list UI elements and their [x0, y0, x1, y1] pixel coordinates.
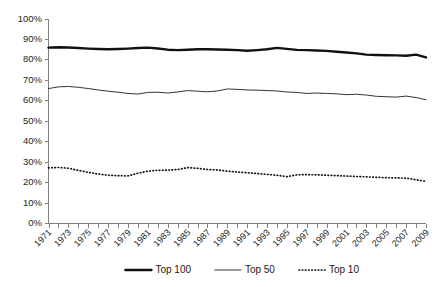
y-axis-tick-label: 100% [18, 13, 43, 24]
x-axis-tick-label: 2009 [410, 227, 431, 248]
x-axis-tick-label: 1979 [112, 227, 133, 248]
y-axis-tick-label: 80% [23, 53, 43, 64]
x-axis-tick-label: 1977 [92, 227, 113, 248]
x-axis-tick-label: 1987 [191, 227, 212, 248]
x-axis-tick-marks [50, 224, 427, 229]
x-axis-tick-label: 2007 [390, 227, 411, 248]
y-axis-tick-label: 0% [28, 217, 42, 228]
series-line-top-100 [49, 47, 427, 57]
x-axis-tick-label: 1973 [52, 227, 73, 248]
legend-label-top-100: Top 100 [155, 264, 191, 275]
y-axis-tick-label: 10% [23, 197, 43, 208]
x-axis-tick-label: 1981 [132, 227, 153, 248]
x-axis-tick-label: 2001 [330, 227, 351, 248]
x-axis-tick-label: 1989 [211, 227, 232, 248]
series-line-top-50 [49, 86, 427, 99]
y-axis-tick-label: 60% [23, 94, 43, 105]
chart-container: 100%90%80%70%60%50%40%30%20%10%0% 197119… [0, 0, 444, 287]
x-axis-tick-label: 1997 [290, 227, 311, 248]
x-axis-tick-label: 2003 [350, 227, 371, 248]
y-axis-tick-label: 50% [23, 115, 43, 126]
x-axis-tick-label: 1985 [171, 227, 192, 248]
y-axis-tick-label: 20% [23, 176, 43, 187]
x-axis-tick-label: 2005 [370, 227, 391, 248]
legend-label-top-50: Top 50 [245, 264, 275, 275]
x-axis-tick-label: 1971 [32, 227, 53, 248]
legend-label-top-10: Top 10 [329, 264, 359, 275]
x-axis-tick-label: 1975 [72, 227, 93, 248]
series-line-top-10 [49, 167, 427, 181]
x-axis-tick-labels: 1971197319751977197919811983198519871989… [32, 227, 431, 248]
y-axis-tick-label: 90% [23, 33, 43, 44]
y-axis-tick-labels: 100%90%80%70%60%50%40%30%20%10%0% [18, 13, 43, 229]
x-axis-tick-label: 1991 [231, 227, 252, 248]
chart-legend: Top 100Top 50Top 10 [125, 264, 359, 275]
x-axis-tick-label: 1983 [151, 227, 172, 248]
line-chart: 100%90%80%70%60%50%40%30%20%10%0% 197119… [0, 0, 444, 287]
series-lines [49, 47, 427, 181]
y-axis-tick-label: 30% [23, 156, 43, 167]
y-axis-tick-label: 40% [23, 135, 43, 146]
x-axis-tick-label: 1999 [310, 227, 331, 248]
x-axis-tick-label: 1993 [251, 227, 272, 248]
y-axis-tick-marks [45, 19, 49, 224]
y-axis-tick-label: 70% [23, 74, 43, 85]
x-axis-tick-label: 1995 [271, 227, 292, 248]
